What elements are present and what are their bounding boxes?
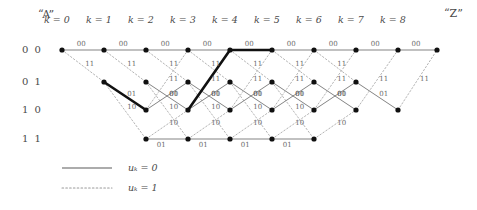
edge-output-label: 00: [161, 40, 170, 48]
edge-output-label: 11: [253, 75, 262, 83]
trellis-node: [185, 136, 190, 141]
edge-output-labels-layer: 0011001101100011011011001001001101101100…: [77, 40, 429, 149]
trellis-edge: [146, 50, 188, 110]
edge-output-label: 00: [211, 90, 220, 98]
stage-label-k6: k = 6: [296, 14, 322, 25]
edge-output-label: 11: [337, 60, 346, 68]
legend-label-dotted: uₖ = 1: [128, 182, 158, 193]
trellis-edge: [146, 110, 188, 139]
trellis-edge: [272, 82, 314, 139]
edge-output-label: 11: [337, 75, 346, 83]
legend-line-samples: [60, 160, 120, 200]
edge-output-label: 10: [211, 103, 220, 111]
stage-label-k4: k = 4: [212, 14, 238, 25]
edge-output-label: 11: [127, 60, 136, 68]
trellis-edge: [62, 50, 104, 82]
edge-output-label: 00: [337, 90, 346, 98]
state-label-01: 0 1: [22, 76, 42, 87]
trellis-node: [311, 47, 316, 52]
edge-output-label: 00: [245, 40, 254, 48]
trellis-edge: [272, 110, 314, 139]
edge-output-label: 10: [295, 103, 304, 111]
edge-output-label: 00: [253, 90, 262, 98]
trellis-edge: [314, 50, 356, 82]
trellis-node: [185, 47, 190, 52]
end-node-label: “Z”: [444, 7, 463, 20]
stage-label-k0: k = 0: [44, 14, 70, 25]
trellis-node: [395, 47, 400, 52]
stage-label-k7: k = 7: [338, 14, 364, 25]
trellis-node: [227, 107, 232, 112]
edge-output-label: 01: [379, 90, 388, 98]
edge-output-label: 10: [295, 119, 304, 127]
trellis-edge: [188, 50, 230, 110]
trellis-node: [143, 136, 148, 141]
edge-output-label: 11: [253, 60, 262, 68]
trellis-edge: [188, 110, 230, 139]
trellis-node: [269, 136, 274, 141]
edge-output-label: 10: [253, 103, 262, 111]
edge-output-label: 10: [337, 119, 346, 127]
trellis-edge: [104, 82, 146, 110]
edge-output-label: 00: [77, 40, 86, 48]
trellis-edge: [146, 50, 188, 82]
edge-output-label: 01: [199, 141, 208, 149]
trellis-edge: [230, 110, 272, 139]
trellis-edge: [356, 50, 398, 110]
edge-output-label: 01: [127, 90, 136, 98]
trellis-edge: [104, 50, 146, 82]
edge-output-label: 01: [157, 141, 166, 149]
trellis-node: [353, 107, 358, 112]
state-label-00: 0 0: [22, 44, 42, 55]
edge-output-label: 11: [211, 75, 220, 83]
trellis-node: [101, 79, 106, 84]
edge-output-label: 10: [253, 119, 262, 127]
trellis-edge: [230, 50, 272, 110]
trellis-node: [311, 136, 316, 141]
stage-label-k5: k = 5: [254, 14, 280, 25]
edge-output-label: 11: [420, 75, 429, 83]
trellis-edge: [272, 50, 314, 110]
trellis-edge: [356, 82, 398, 110]
trellis-node: [59, 47, 64, 52]
trellis-edge: [314, 50, 356, 110]
trellis-node: [353, 79, 358, 84]
trellis-edge: [272, 50, 314, 82]
edge-output-label: 01: [283, 141, 292, 149]
trellis-node: [269, 47, 274, 52]
edge-output-label: 00: [287, 40, 296, 48]
edge-output-label: 11: [211, 60, 220, 68]
edge-output-label: 11: [169, 60, 178, 68]
state-label-11: 1 1: [22, 133, 42, 144]
stage-label-k2: k = 2: [128, 14, 154, 25]
trellis-node: [101, 47, 106, 52]
trellis-node: [311, 79, 316, 84]
legend-label-solid: uₖ = 0: [128, 162, 158, 173]
trellis-figure: 0011001101100011011011001001001101101100…: [0, 0, 477, 210]
edge-output-label: 01: [241, 141, 250, 149]
trellis-node: [185, 107, 190, 112]
trellis-edge: [230, 50, 272, 82]
trellis-edge: [188, 50, 230, 82]
trellis-edge: [398, 50, 437, 110]
trellis-edge: [104, 82, 146, 139]
trellis-node: [227, 79, 232, 84]
trellis-node: [434, 47, 439, 52]
edge-output-label: 10: [127, 103, 136, 111]
trellis-edge: [314, 110, 356, 139]
trellis-node: [227, 136, 232, 141]
trellis-node: [143, 47, 148, 52]
edge-output-label: 10: [211, 119, 220, 127]
edge-output-label: 11: [85, 60, 94, 68]
trellis-node: [353, 47, 358, 52]
trellis-node: [227, 47, 232, 52]
edge-output-label: 00: [329, 40, 338, 48]
trellis-node: [185, 79, 190, 84]
edge-output-label: 11: [295, 75, 304, 83]
edge-output-label: 11: [169, 75, 178, 83]
edge-output-label: 00: [371, 40, 380, 48]
trellis-node: [269, 79, 274, 84]
trellis-node: [311, 107, 316, 112]
trellis-node: [143, 79, 148, 84]
stage-label-k1: k = 1: [86, 14, 112, 25]
